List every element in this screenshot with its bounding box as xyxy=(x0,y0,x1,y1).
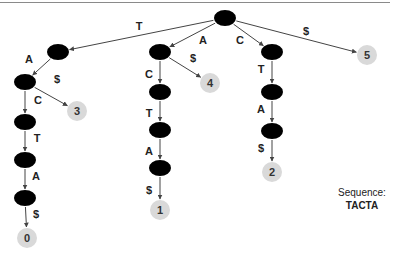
edge-label: $ xyxy=(33,208,39,220)
edge-label: T xyxy=(136,20,143,32)
internal-node xyxy=(149,44,171,60)
internal-node xyxy=(14,190,36,206)
leaf-node-4: 4 xyxy=(200,73,220,93)
edge-label: $ xyxy=(258,142,264,154)
tree-nodes: 031425 xyxy=(14,10,377,248)
suffix-tree-diagram: 031425 TA$CTA$A$CTA$CTA$$ xyxy=(0,0,395,259)
leaf-label: 0 xyxy=(24,232,30,244)
internal-node xyxy=(14,152,36,168)
root-node xyxy=(214,10,236,26)
edge-root-leaf5 xyxy=(236,21,356,52)
edge-label: $ xyxy=(54,73,60,85)
edge-label: A xyxy=(145,145,153,157)
edge-label: A xyxy=(32,170,40,182)
internal-node xyxy=(261,44,283,60)
sequence-value: TACTA xyxy=(330,199,394,212)
internal-node xyxy=(14,74,36,90)
edge-label: A xyxy=(25,53,33,65)
edge-root-a xyxy=(170,23,215,47)
edge-label: A xyxy=(199,34,207,46)
leaf-label: 1 xyxy=(157,204,163,216)
internal-node xyxy=(261,123,283,139)
internal-node xyxy=(149,84,171,100)
leaf-node-2: 2 xyxy=(262,162,282,182)
edge-label: $ xyxy=(303,25,309,37)
internal-node xyxy=(47,44,69,60)
internal-node xyxy=(261,84,283,100)
edge-label: C xyxy=(236,34,244,46)
edge-label: $ xyxy=(190,52,196,64)
edge-label: T xyxy=(34,132,41,144)
sequence-label: Sequence: xyxy=(338,187,386,198)
leaf-label: 5 xyxy=(364,49,370,61)
leaf-node-1: 1 xyxy=(150,200,170,220)
internal-node xyxy=(149,122,171,138)
leaf-node-0: 0 xyxy=(17,228,37,248)
edge-label: C xyxy=(145,68,153,80)
leaf-node-5: 5 xyxy=(357,45,377,65)
leaf-label: 4 xyxy=(207,77,214,89)
leaf-label: 3 xyxy=(74,105,80,117)
leaf-node-3: 3 xyxy=(67,101,87,121)
internal-node xyxy=(149,160,171,176)
edge-label: $ xyxy=(146,184,152,196)
edge-label: T xyxy=(146,107,153,119)
edge-label: A xyxy=(257,103,265,115)
edge-tacta-leaf0 xyxy=(25,207,26,227)
leaf-label: 2 xyxy=(269,166,275,178)
internal-node xyxy=(14,114,36,130)
edge-label: T xyxy=(258,63,265,75)
sequence-caption: Sequence: TACTA xyxy=(330,186,394,212)
edge-label: C xyxy=(34,94,42,106)
edge-t-ta xyxy=(33,59,51,75)
